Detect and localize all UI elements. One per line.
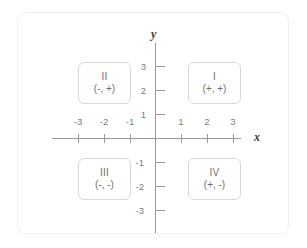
y-tick-1 <box>156 114 165 115</box>
quadrant-3-box: III (-, -) <box>78 158 131 200</box>
y-tick-2 <box>156 90 165 91</box>
quadrant-1-signs: (+, +) <box>203 83 227 96</box>
quadrant-3-roman: III <box>100 167 109 180</box>
x-tick-label-2: 2 <box>198 117 216 127</box>
y-tick-label-1: 1 <box>128 110 146 120</box>
y-tick-minus-3 <box>156 210 165 211</box>
y-axis-line <box>155 43 156 233</box>
quadrant-4-signs: (+, -) <box>204 179 225 192</box>
x-tick-1 <box>181 134 182 143</box>
y-axis-label: y <box>151 28 156 40</box>
x-axis-line <box>52 138 241 139</box>
y-tick-3 <box>156 66 165 67</box>
x-tick-label-minus-2: -2 <box>95 117 113 127</box>
plot-area: -3 -2 -1 1 2 3 3 2 1 -1 -2 -3 x y I (+, … <box>0 0 307 248</box>
y-tick-minus-2 <box>156 186 165 187</box>
y-tick-label-minus-3: -3 <box>126 206 144 216</box>
quadrant-3-signs: (-, -) <box>95 179 114 192</box>
x-tick-minus-1 <box>130 134 131 143</box>
x-tick-minus-2 <box>104 134 105 143</box>
quadrant-4-roman: IV <box>210 167 220 180</box>
coordinate-plane-figure: -3 -2 -1 1 2 3 3 2 1 -1 -2 -3 x y I (+, … <box>0 0 307 248</box>
x-tick-label-minus-3: -3 <box>69 117 87 127</box>
quadrant-1-roman: I <box>213 71 216 84</box>
x-axis-label: x <box>254 131 260 143</box>
quadrant-2-roman: II <box>102 71 108 84</box>
x-tick-2 <box>207 134 208 143</box>
quadrant-1-box: I (+, +) <box>188 62 241 104</box>
x-tick-label-1: 1 <box>172 117 190 127</box>
quadrant-2-box: II (-, +) <box>78 62 131 104</box>
x-tick-3 <box>233 134 234 143</box>
quadrant-2-signs: (-, +) <box>94 83 115 96</box>
x-tick-minus-3 <box>78 134 79 143</box>
quadrant-4-box: IV (+, -) <box>188 158 241 200</box>
x-tick-label-3: 3 <box>224 117 242 127</box>
y-tick-minus-1 <box>156 162 165 163</box>
